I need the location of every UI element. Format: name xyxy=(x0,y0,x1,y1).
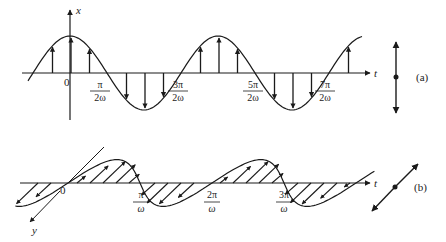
field-arrow xyxy=(17,183,39,204)
tick-denominator: 2ω xyxy=(319,92,331,103)
field-arrow xyxy=(246,162,268,183)
tick-numerator: 2π xyxy=(207,189,217,200)
field-arrow xyxy=(291,183,312,203)
tick-denominator: 2ω xyxy=(94,92,106,103)
x-axis-label: x xyxy=(75,4,81,16)
panel-b xyxy=(15,147,374,222)
tick-numerator: 5π xyxy=(248,79,258,90)
polarization-symbol-b xyxy=(372,164,418,211)
panel-tag-a: (a) xyxy=(416,71,429,84)
origin-label-a: 0 xyxy=(64,76,70,88)
field-arrow xyxy=(344,183,350,187)
tick-denominator: 2ω xyxy=(172,92,184,103)
tick-labels-b: πω2πω3πω xyxy=(133,189,292,214)
field-arrow xyxy=(77,176,86,183)
tick-numerator: 3π xyxy=(279,189,289,200)
tick-denominator: ω xyxy=(208,203,215,214)
tick-numerator: π xyxy=(97,79,102,90)
field-arrow xyxy=(220,177,228,183)
polarization-symbol-a xyxy=(394,42,399,113)
tick-numerator: 7π xyxy=(320,79,330,90)
y-axis-label: y xyxy=(31,224,37,236)
field-arrow xyxy=(103,162,125,183)
tick-numerator: 3π xyxy=(173,79,183,90)
panel-tag-b: (b) xyxy=(414,181,427,194)
origin-label-b: 0 xyxy=(60,184,66,196)
tick-denominator: ω xyxy=(137,203,144,214)
y-axis xyxy=(30,191,60,222)
field-arrow xyxy=(159,183,181,204)
wave-diagram: x t 0 π2ω3π2ω5π2ω7π2ω (a) y t 0 πω2πω3πω… xyxy=(0,0,446,242)
field-arrow xyxy=(147,183,168,203)
t-axis-label-a: t xyxy=(374,67,378,79)
panel-a xyxy=(22,10,370,120)
field-arrow xyxy=(302,183,324,204)
tick-denominator: 2ω xyxy=(247,92,259,103)
t-axis-label-b: t xyxy=(374,177,378,189)
tick-numerator: π xyxy=(138,189,143,200)
tick-denominator: ω xyxy=(280,203,287,214)
